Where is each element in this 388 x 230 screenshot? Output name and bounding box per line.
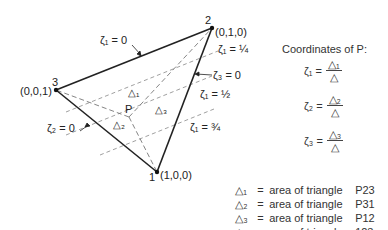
equation-lhs: ζ₂ = bbox=[304, 100, 323, 112]
arrowhead-icon bbox=[85, 123, 90, 127]
legend-desc: area of triangle bbox=[269, 226, 355, 230]
vertex-3-dot bbox=[54, 88, 58, 92]
fraction: △₁ △ bbox=[326, 58, 342, 83]
fraction: △₂ △ bbox=[327, 93, 343, 118]
equation-lhs: ζ₁ = bbox=[304, 65, 322, 77]
triangle-edges bbox=[56, 28, 212, 172]
numerator: △₂ bbox=[327, 93, 343, 106]
vertex-2-dot bbox=[210, 26, 214, 30]
zeta2-zero-label: ζ₂ = 0 bbox=[47, 122, 75, 134]
subarea-1-label: △₁ bbox=[128, 87, 140, 98]
numerator: △₁ bbox=[326, 58, 342, 71]
edge-2-1 bbox=[157, 28, 212, 172]
coordinates-title: Coordinates of P: bbox=[282, 43, 367, 55]
equation-zeta2: ζ₂ = △₂ △ bbox=[304, 93, 343, 118]
equation-lhs: ζ₃ = bbox=[304, 135, 323, 147]
legend-ref: 123 bbox=[355, 226, 373, 230]
legend-symbol: △ bbox=[235, 226, 257, 230]
denominator: △ bbox=[331, 106, 339, 118]
legend-equals: = bbox=[257, 226, 269, 230]
p-connectors bbox=[56, 28, 212, 172]
equation-zeta3: ζ₃ = △₃ △ bbox=[304, 128, 343, 153]
vertex-1-dot bbox=[155, 170, 159, 174]
point-p-label: P bbox=[125, 103, 132, 115]
isoline-quarter-label: ζ₁ = ¼ bbox=[218, 43, 249, 55]
vertex-2-coords: (0,1,0) bbox=[215, 26, 247, 38]
vertex-1-coords: (1,0,0) bbox=[160, 169, 192, 181]
vertex-3-label: 3 bbox=[52, 76, 58, 88]
zeta3-zero-label: ζ₃ = 0 bbox=[213, 69, 241, 81]
isoline-half-label: ζ₁ = ½ bbox=[200, 88, 230, 100]
denominator: △ bbox=[330, 71, 338, 83]
denominator: △ bbox=[331, 141, 339, 153]
vertex-2-label: 2 bbox=[205, 14, 211, 26]
isoline-three-quarter-label: ζ₁ = ¾ bbox=[190, 121, 221, 133]
edge-3-2 bbox=[56, 28, 212, 90]
vertex-1-label: 1 bbox=[149, 171, 155, 183]
legend-row: △=area of triangle123 bbox=[229, 214, 373, 230]
fraction: △₃ △ bbox=[327, 128, 343, 153]
subarea-3-label: △₃ bbox=[155, 104, 167, 115]
equation-zeta1: ζ₁ = △₁ △ bbox=[304, 58, 342, 83]
zeta1-zero-label: ζ₁ = 0 bbox=[100, 34, 127, 46]
vertex-3-coords: (0,0,1) bbox=[20, 85, 52, 97]
subarea-2-label: △₂ bbox=[113, 119, 125, 130]
numerator: △₃ bbox=[327, 128, 343, 141]
